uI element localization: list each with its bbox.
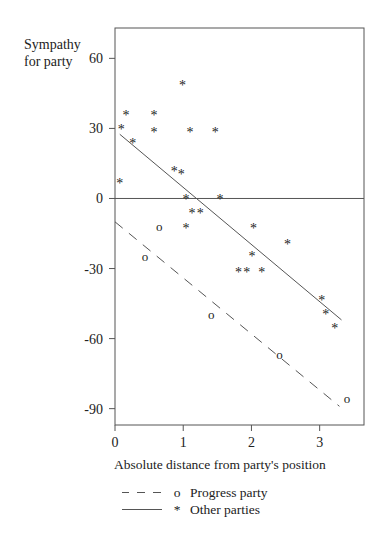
asterisk-marker: *	[122, 108, 129, 123]
dashed-line-icon	[122, 492, 162, 493]
asterisk-marker: *	[182, 192, 189, 207]
asterisk-marker: *	[258, 265, 265, 280]
asterisk-marker: *	[318, 293, 325, 308]
asterisk-marker: *	[217, 192, 224, 207]
circle-marker: o	[156, 219, 163, 234]
asterisk-marker: *	[235, 265, 242, 280]
legend-label: Progress party	[190, 485, 268, 501]
y-tick-label: -30	[84, 262, 103, 277]
y-tick-label: 0	[96, 191, 103, 206]
asterisk-marker: *	[249, 249, 256, 264]
asterisk-marker: *	[243, 265, 250, 280]
plot-frame	[115, 28, 364, 425]
asterisk-marker: *	[182, 221, 189, 236]
asterisk-marker: *	[197, 206, 204, 221]
circle-marker: o	[276, 347, 283, 362]
asterisk-marker: *	[331, 321, 338, 336]
y-tick-label: 30	[89, 121, 103, 136]
solid-line-icon	[122, 509, 162, 510]
asterisk-marker: *	[116, 176, 123, 191]
asterisk-marker: *	[322, 307, 329, 322]
y-tick-label: 60	[89, 51, 103, 66]
x-tick-label: 1	[180, 435, 187, 450]
asterisk-marker: *	[129, 136, 136, 151]
legend-label: Other parties	[190, 502, 260, 518]
legend-item-progress-party: o Progress party	[122, 484, 268, 501]
legend: o Progress party * Other parties	[122, 484, 268, 518]
asterisk-marker: *	[150, 125, 157, 140]
asterisk-marker: *	[189, 206, 196, 221]
x-tick-label: 2	[248, 435, 255, 450]
circle-marker: o	[142, 249, 149, 264]
scatter-plot: 60300-30-60-900123ooooo*****************…	[0, 0, 387, 533]
asterisk-marker: *	[212, 125, 219, 140]
asterisk-marker: *	[284, 237, 291, 252]
legend-item-other-parties: * Other parties	[122, 501, 268, 518]
asterisk-marker: *	[179, 78, 186, 93]
y-tick-label: -60	[84, 332, 103, 347]
x-tick-label: 0	[112, 435, 119, 450]
asterisk-marker: *	[250, 221, 257, 236]
circle-marker-icon: o	[170, 485, 184, 501]
circle-marker: o	[208, 307, 215, 322]
asterisk-marker: *	[118, 122, 125, 137]
asterisk-marker: *	[187, 125, 194, 140]
x-axis-label: Absolute distance from party's position	[114, 457, 326, 473]
circle-marker: o	[344, 391, 351, 406]
y-tick-label: -90	[84, 402, 103, 417]
progress-party-fit-line	[115, 222, 339, 406]
other-parties-fit-line	[120, 134, 342, 320]
x-tick-label: 3	[316, 435, 323, 450]
asterisk-marker: *	[178, 167, 185, 182]
asterisk-marker: *	[150, 108, 157, 123]
asterisk-marker-icon: *	[170, 502, 184, 518]
